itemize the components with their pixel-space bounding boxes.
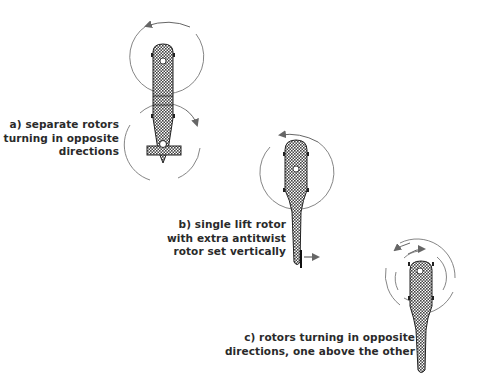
upper-rotor-hub [160, 58, 166, 64]
caption-a-line-1: a) separate rotors [4, 118, 119, 132]
lower-rotor-hub [160, 141, 167, 148]
caption-c: c) rotors turning in opposite directions… [225, 331, 415, 358]
caption-b-line-2: with extra antitwist [167, 232, 286, 246]
caption-c-line-1: c) rotors turning in opposite [225, 331, 415, 345]
caption-b-line-3: rotor set vertically [167, 245, 286, 259]
caption-b-line-1: b) single lift rotor [167, 218, 286, 232]
caption-a: a) separate rotors turning in opposite d… [4, 118, 119, 159]
caption-c-line-2: directions, one above the other [225, 345, 415, 359]
fuselage-b [285, 140, 307, 265]
caption-a-line-2: turning in opposite [4, 132, 119, 146]
diagram-a-tandem [124, 22, 203, 180]
upper-rotor-arrow-icon [146, 22, 190, 27]
caption-a-line-3: directions [4, 145, 119, 159]
caption-b: b) single lift rotor with extra antitwis… [167, 218, 286, 259]
lower-rotor-arrow-icon [186, 110, 197, 125]
rotor-hub [293, 166, 299, 172]
coaxial-hub [417, 268, 423, 274]
outer-rotor-arrow-icon [395, 243, 410, 250]
